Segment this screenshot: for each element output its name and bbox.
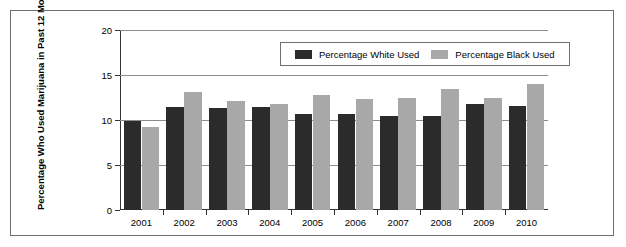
x-tick-mark: [420, 210, 421, 215]
legend-label-black: Percentage Black Used: [455, 49, 554, 60]
x-tick-mark: [291, 210, 292, 215]
y-tick-mark: [115, 120, 120, 121]
y-tick-label: 10: [101, 115, 112, 126]
chart-figure: Percentage Who Used Marijuana in Past 12…: [0, 0, 626, 247]
x-tick-mark: [248, 210, 249, 215]
bar: [441, 89, 459, 210]
plot-area: 05101520 2001200220032004200520062007200…: [120, 30, 548, 210]
bar: [423, 116, 441, 210]
bar: [209, 108, 227, 210]
bar: [380, 116, 398, 211]
legend-item-black: Percentage Black Used: [425, 49, 560, 60]
bar: [166, 107, 184, 210]
gridline: [120, 30, 548, 31]
y-tick-mark: [115, 75, 120, 76]
x-tick-mark: [377, 210, 378, 215]
x-tick-label: 2007: [388, 217, 409, 228]
x-tick-label: 2003: [216, 217, 237, 228]
x-tick-mark: [163, 210, 164, 215]
legend-label-white: Percentage White Used: [319, 49, 419, 60]
legend-swatch-white: [295, 50, 312, 59]
y-tick-label: 5: [107, 160, 112, 171]
bar: [142, 127, 160, 210]
x-tick-label: 2002: [174, 217, 195, 228]
bar: [295, 114, 313, 210]
x-tick-label: 2009: [473, 217, 494, 228]
bar: [484, 98, 502, 210]
y-tick-mark: [115, 210, 120, 211]
bar: [356, 99, 374, 210]
x-tick-label: 2004: [259, 217, 280, 228]
bar: [338, 114, 356, 210]
x-tick-mark: [505, 210, 506, 215]
y-tick-mark: [115, 165, 120, 166]
y-tick-label: 15: [101, 70, 112, 81]
chart-legend: Percentage White Used Percentage Black U…: [280, 42, 570, 66]
bar: [184, 92, 202, 210]
bar: [313, 95, 331, 210]
y-tick-label: 0: [107, 205, 112, 216]
bar: [124, 121, 142, 210]
y-axis-label: Percentage Who Used Marijuana in Past 12…: [35, 30, 47, 210]
bar: [527, 84, 545, 210]
x-tick-mark: [206, 210, 207, 215]
y-tick-mark: [115, 30, 120, 31]
bar: [227, 101, 245, 210]
bar: [509, 106, 527, 210]
y-tick-label: 20: [101, 25, 112, 36]
y-axis-label-container: Percentage Who Used Marijuana in Past 12…: [28, 30, 54, 210]
bar: [466, 104, 484, 210]
gridline: [120, 75, 548, 76]
legend-swatch-black: [431, 50, 448, 59]
legend-item-white: Percentage White Used: [289, 49, 425, 60]
bar: [398, 98, 416, 210]
x-tick-label: 2008: [430, 217, 451, 228]
x-tick-label: 2006: [345, 217, 366, 228]
bar: [252, 107, 270, 210]
x-tick-label: 2001: [131, 217, 152, 228]
bar: [270, 104, 288, 210]
x-tick-mark: [462, 210, 463, 215]
x-tick-label: 2010: [516, 217, 537, 228]
x-tick-mark: [334, 210, 335, 215]
x-tick-label: 2005: [302, 217, 323, 228]
